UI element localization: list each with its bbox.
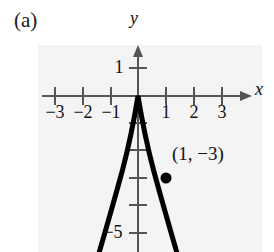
x-tick-label-neg3: −3 <box>44 102 66 123</box>
y-tick-label-neg5: −5 <box>100 222 126 243</box>
point-annotation-label: (1, −3) <box>172 143 224 165</box>
x-tick-label-neg1: −1 <box>100 102 122 123</box>
data-point-marker <box>161 173 172 184</box>
y-axis-arrowhead <box>133 45 143 57</box>
y-axis-label: y <box>130 8 138 29</box>
figure-container: (a) y x −3 −2 −1 1 2 3 <box>0 0 274 252</box>
x-tick-label-1: 1 <box>158 102 174 123</box>
y-tick-label-1: 1 <box>111 57 127 78</box>
x-tick-label-2: 2 <box>186 102 202 123</box>
x-tick-label-neg2: −2 <box>72 102 94 123</box>
graph-canvas <box>0 0 274 252</box>
x-axis-label: x <box>255 79 263 100</box>
x-tick-label-3: 3 <box>214 102 230 123</box>
x-axis-arrowhead <box>240 91 252 101</box>
